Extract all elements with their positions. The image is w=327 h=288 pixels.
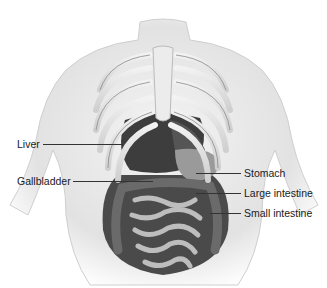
label-liver: Liver — [17, 138, 40, 150]
label-small-intestine: Small intestine — [244, 207, 312, 219]
large-intestine-leader-line — [196, 193, 241, 194]
stomach-leader-line — [196, 173, 241, 174]
gallbladder-leader-line — [73, 181, 153, 182]
label-stomach: Stomach — [244, 167, 285, 179]
label-large-intestine: Large intestine — [244, 187, 313, 199]
small-intestine-leader-line — [210, 213, 241, 214]
label-gallbladder: Gallbladder — [17, 175, 71, 187]
sternum — [153, 46, 173, 121]
liver-leader-line — [43, 144, 123, 145]
